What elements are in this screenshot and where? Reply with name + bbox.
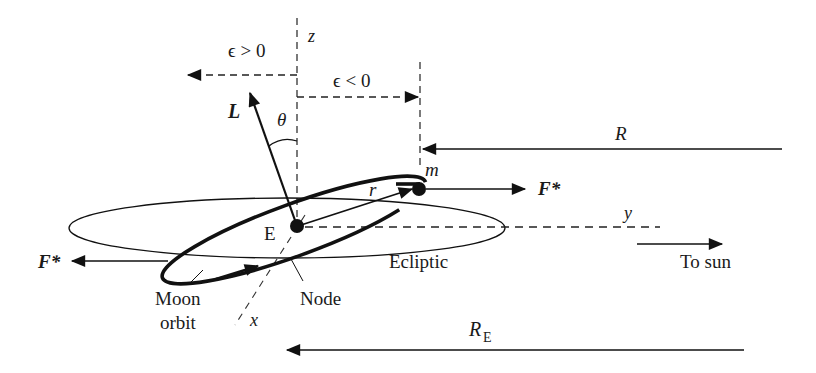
- eps-pos-label: ϵ > 0: [228, 40, 265, 61]
- radius-label: r: [369, 179, 377, 200]
- earth-label: E: [264, 223, 276, 244]
- node-leader: [291, 259, 303, 281]
- moon-orbit-label-line2: orbit: [160, 312, 197, 333]
- x-axis-label: x: [249, 310, 258, 330]
- earth-sun-distance-subscript: E: [483, 330, 492, 345]
- theta-arc: [269, 139, 297, 146]
- node-label: Node: [300, 288, 341, 309]
- angular-momentum-vector: [250, 93, 297, 226]
- eps-neg-label: ϵ < 0: [333, 70, 370, 91]
- moon-orbit-diagram: z ϵ > 0 ϵ < 0 L θ R m y x r E F* F* Ecli…: [0, 0, 816, 373]
- z-axis-label: z: [307, 26, 315, 46]
- sun-distance-label: R: [614, 123, 627, 144]
- theta-label: θ: [277, 109, 286, 130]
- ecliptic-label: Ecliptic: [389, 251, 448, 272]
- ecliptic-ellipse: [69, 198, 505, 258]
- angular-momentum-label: L: [227, 100, 240, 122]
- mass-label: m: [425, 159, 439, 180]
- earth-dot: [290, 219, 304, 233]
- force-right-label: F*: [537, 178, 561, 199]
- force-left-label: F*: [37, 251, 61, 272]
- earth-sun-distance-label: R: [468, 318, 481, 340]
- moon-dot: [412, 182, 426, 196]
- moon-orbit-label-line1: Moon: [155, 288, 201, 309]
- y-axis-label: y: [622, 203, 632, 223]
- to-sun-label: To sun: [680, 251, 731, 272]
